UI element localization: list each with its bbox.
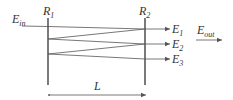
input-label: Ein [11,12,26,28]
output-label-2: E2 [171,37,183,53]
reflection-4 [48,54,145,59]
output-label-1: E1 [171,22,183,38]
incident-beam [22,26,48,27]
beam-pass-1 [48,27,145,30]
mirror-r1-label: R1 [42,4,54,20]
reflection-2 [48,39,145,44]
reflection-3 [48,44,145,54]
output-label-3: E3 [171,52,183,68]
mirror-r2-label: R2 [138,4,150,20]
fabry-perot-diagram: R1 R2 Ein E1 E2 E3 Eout L [0,0,233,100]
total-output-label: Eout [196,23,215,39]
spacing-label: L [93,79,101,93]
reflection-1 [48,29,145,39]
